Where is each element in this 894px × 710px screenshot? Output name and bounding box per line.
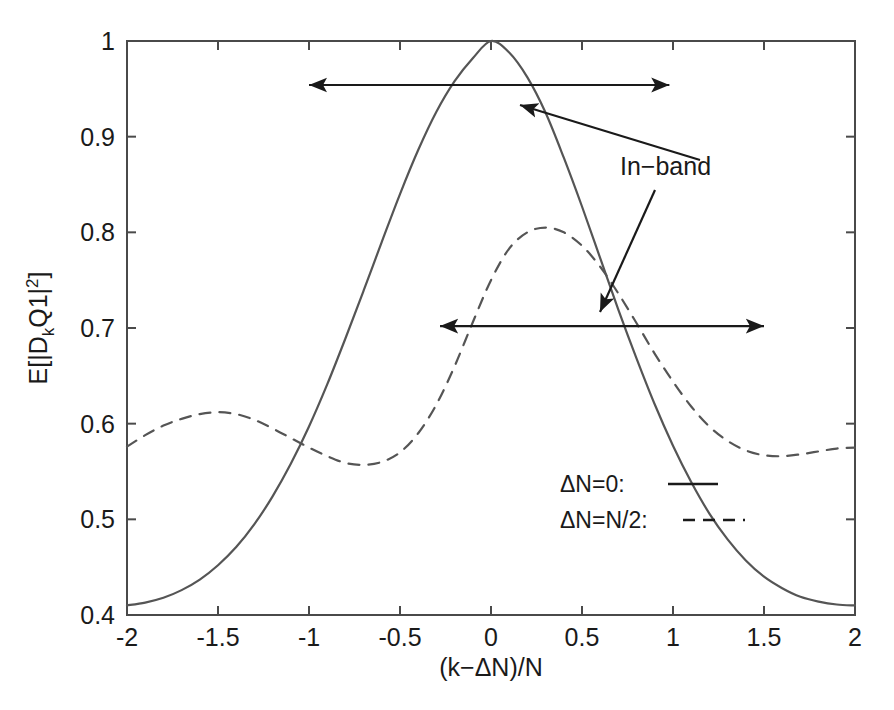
x-tick-label: -2 [116,623,138,651]
x-tick-label: -1.5 [196,623,239,651]
x-tick-label: 0.5 [565,623,600,651]
y-tick-label: 0.4 [80,601,115,629]
legend-entry-0-label: ΔN=0: [560,471,625,497]
x-tick-label: 1.5 [747,623,782,651]
y-axis-title-prefix: E[|D [24,336,52,384]
y-tick-label: 0.8 [80,218,115,246]
y-tick-label: 0.7 [80,314,115,342]
y-axis-title-suffix: ] [24,272,52,279]
y-axis-title-mid: Q1| [24,288,52,328]
x-tick-label: 0 [484,623,498,651]
y-tick-label: 0.6 [80,410,115,438]
x-axis-title: (k−ΔN)/N [439,653,543,681]
plot-frame [127,41,855,615]
chart-svg: -2-1.5-1-0.500.511.52 0.40.50.60.70.80.9… [0,0,894,710]
svg-text:E[|DkQ1|2]: E[|DkQ1|2] [23,272,58,385]
x-tick-label: -1 [298,623,320,651]
y-tick-label: 0.9 [80,123,115,151]
x-tick-label: 1 [666,623,680,651]
y-axis-title: E[|DkQ1|2] [23,272,58,385]
y-tick-label: 1 [101,27,115,55]
in-band-annotation-label: In−band [620,152,711,180]
y-axis-title-superscript: 2 [23,278,42,287]
figure-container: -2-1.5-1-0.500.511.52 0.40.50.60.70.80.9… [0,0,894,710]
x-tick-label: -0.5 [378,623,421,651]
x-tick-label: 2 [848,623,862,651]
legend-entry-1-label: ΔN=N/2: [560,507,648,533]
y-tick-label: 0.5 [80,505,115,533]
